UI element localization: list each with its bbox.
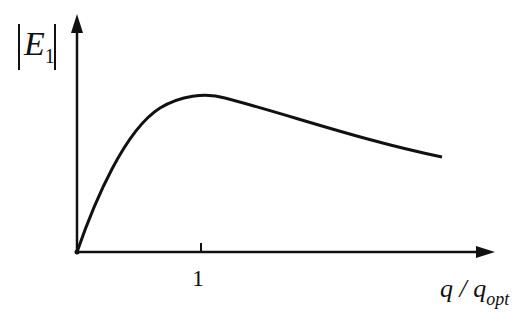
x-axis-arrow-icon — [476, 246, 495, 258]
y-axis-arrow-icon — [71, 14, 83, 33]
x-label-subscript: opt — [486, 289, 509, 309]
y-label-main: E — [24, 25, 45, 62]
x-label-main: q / q — [440, 274, 486, 303]
curve-E1 — [77, 95, 442, 252]
x-tick-label-1: 1 — [192, 265, 204, 292]
chart-canvas — [0, 0, 530, 321]
x-axis-label: q / qopt — [440, 275, 509, 313]
origin-point — [75, 250, 80, 255]
y-axis-label: E1 — [24, 27, 55, 73]
y-label-subscript: 1 — [45, 45, 55, 67]
